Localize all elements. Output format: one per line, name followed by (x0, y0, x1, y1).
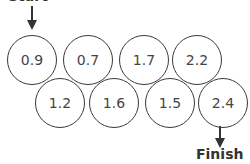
circle-value: 0.9 (21, 52, 43, 68)
number-path-diagram: Start 0.9 0.7 1.7 2.2 1.2 1.6 1.5 2.4 Fi… (0, 0, 250, 164)
circle-value: 0.7 (77, 52, 99, 68)
circle-value: 2.2 (186, 52, 208, 68)
number-circle-bottom-1: 1.2 (35, 78, 85, 128)
circle-value: 1.2 (49, 95, 71, 111)
circle-value: 2.4 (212, 95, 234, 111)
finish-label: Finish (196, 146, 243, 162)
number-circle-top-3: 1.7 (119, 35, 169, 85)
number-circle-top-1: 0.9 (7, 35, 57, 85)
number-circle-bottom-4: 2.4 (198, 78, 248, 128)
number-circle-top-4: 2.2 (172, 35, 222, 85)
circle-value: 1.7 (133, 52, 155, 68)
circle-value: 1.6 (103, 95, 125, 111)
number-circle-bottom-2: 1.6 (89, 78, 139, 128)
finish-arrow-icon (215, 126, 225, 148)
number-circle-top-2: 0.7 (63, 35, 113, 85)
circle-value: 1.5 (159, 95, 181, 111)
start-arrow-icon (27, 6, 37, 30)
number-circle-bottom-3: 1.5 (145, 78, 195, 128)
